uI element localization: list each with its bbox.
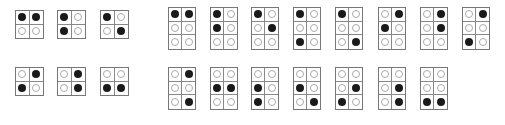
dot-slot <box>72 82 86 96</box>
dot-slot <box>211 35 224 49</box>
filled-dot-icon <box>395 10 403 18</box>
dot-slot <box>252 8 265 22</box>
filled-dot-icon <box>338 10 346 18</box>
dot-slot <box>307 8 320 22</box>
filled-dot-icon <box>352 84 360 92</box>
dot-slot <box>72 11 86 25</box>
empty-dot-icon <box>268 98 276 106</box>
three-row-cell <box>210 7 238 50</box>
dot-slot <box>58 11 72 25</box>
empty-dot-icon <box>227 24 235 32</box>
dot-slot <box>349 95 362 109</box>
dot-slot <box>392 68 405 82</box>
dot-slot <box>101 25 115 39</box>
filled-dot-icon <box>296 10 304 18</box>
empty-dot-icon <box>103 70 111 78</box>
dot-slot <box>294 8 307 22</box>
dot-slot <box>169 8 182 22</box>
filled-dot-icon <box>310 98 318 106</box>
empty-dot-icon <box>185 84 193 92</box>
empty-dot-icon <box>423 70 431 78</box>
empty-dot-icon <box>338 70 346 78</box>
empty-dot-icon <box>213 70 221 78</box>
empty-dot-icon <box>32 84 40 92</box>
empty-dot-icon <box>437 38 445 46</box>
empty-dot-icon <box>296 24 304 32</box>
empty-dot-icon <box>381 84 389 92</box>
filled-dot-icon <box>296 84 304 92</box>
three-row-cell <box>293 7 321 50</box>
two-row-cell <box>15 67 44 96</box>
dot-slot <box>392 35 405 49</box>
two-row-cell <box>100 67 129 96</box>
dot-slot <box>58 68 72 82</box>
dot-slot <box>307 22 320 36</box>
empty-dot-icon <box>296 70 304 78</box>
dot-slot <box>224 95 237 109</box>
dot-slot <box>115 25 129 39</box>
filled-dot-icon <box>437 98 445 106</box>
empty-dot-icon <box>381 38 389 46</box>
dot-slot <box>58 25 72 39</box>
dot-slot <box>294 82 307 96</box>
three-row-cell <box>210 67 238 110</box>
dot-slot <box>211 95 224 109</box>
filled-dot-icon <box>254 84 262 92</box>
empty-dot-icon <box>171 38 179 46</box>
filled-dot-icon <box>74 70 82 78</box>
filled-dot-icon <box>185 98 193 106</box>
empty-dot-icon <box>213 98 221 106</box>
dot-slot <box>72 68 86 82</box>
filled-dot-icon <box>74 84 82 92</box>
three-row-cell <box>335 7 363 50</box>
dot-slot <box>307 95 320 109</box>
dot-slot <box>307 35 320 49</box>
filled-dot-icon <box>465 38 473 46</box>
empty-dot-icon <box>32 27 40 35</box>
dot-slot <box>211 22 224 36</box>
three-row-cell <box>168 7 196 50</box>
dot-slot <box>294 35 307 49</box>
empty-dot-icon <box>254 38 262 46</box>
filled-dot-icon <box>395 98 403 106</box>
empty-dot-icon <box>268 84 276 92</box>
filled-dot-icon <box>381 24 389 32</box>
empty-dot-icon <box>395 38 403 46</box>
dot-slot <box>294 22 307 36</box>
dot-slot <box>265 22 278 36</box>
empty-dot-icon <box>423 38 431 46</box>
filled-dot-icon <box>60 27 68 35</box>
dot-slot <box>463 22 476 36</box>
filled-dot-icon <box>254 98 262 106</box>
dot-slot <box>265 95 278 109</box>
empty-dot-icon <box>381 70 389 78</box>
dot-slot <box>421 8 434 22</box>
empty-dot-icon <box>268 10 276 18</box>
dot-slot <box>115 68 129 82</box>
dot-slot <box>265 68 278 82</box>
dot-slot <box>211 82 224 96</box>
dot-slot <box>252 35 265 49</box>
filled-dot-icon <box>437 10 445 18</box>
dot-slot <box>434 8 447 22</box>
empty-dot-icon <box>352 10 360 18</box>
three-row-cell <box>251 67 279 110</box>
empty-dot-icon <box>437 70 445 78</box>
dot-slot <box>336 35 349 49</box>
empty-dot-icon <box>479 24 487 32</box>
empty-dot-icon <box>338 24 346 32</box>
empty-dot-icon <box>423 84 431 92</box>
three-row-cell <box>251 7 279 50</box>
dot-slot <box>379 82 392 96</box>
dot-slot <box>224 35 237 49</box>
empty-dot-icon <box>227 98 235 106</box>
dot-slot <box>336 22 349 36</box>
empty-dot-icon <box>310 24 318 32</box>
empty-dot-icon <box>171 70 179 78</box>
two-row-cell <box>57 67 86 96</box>
dot-slot <box>421 68 434 82</box>
empty-dot-icon <box>395 70 403 78</box>
dot-slot <box>349 22 362 36</box>
dot-slot <box>16 82 30 96</box>
filled-dot-icon <box>227 84 235 92</box>
